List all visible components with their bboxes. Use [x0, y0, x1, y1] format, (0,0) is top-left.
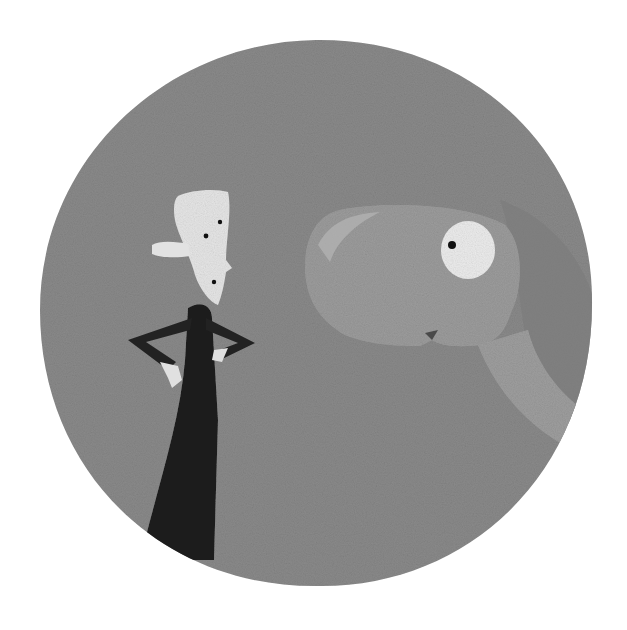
illustration — [0, 0, 627, 630]
man-mouth-dot — [212, 280, 216, 284]
man-eye-2 — [204, 234, 209, 239]
creature-eye-white — [441, 221, 495, 279]
man-hat-nose — [152, 242, 190, 257]
man-eye-1 — [218, 220, 222, 224]
creature-pupil — [448, 241, 456, 249]
